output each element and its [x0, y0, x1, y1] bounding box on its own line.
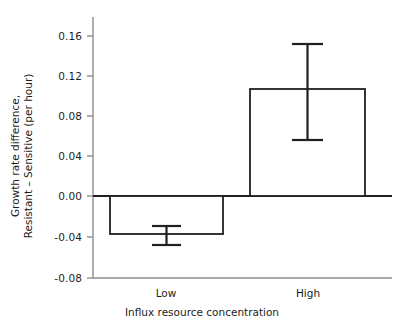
y-axis-ticks	[87, 36, 93, 278]
chart-figure: 0.16 0.12 0.08 0.04 0.00 -0.04 -0.08 Low…	[0, 0, 404, 327]
xtick-label-high: High	[268, 287, 348, 299]
ytick-label-4: 0.00	[38, 190, 82, 202]
ytick-label-2: 0.08	[38, 110, 82, 122]
y-axis-label: Growth rate difference, Resistant – Sens…	[9, 46, 35, 266]
xtick-label-low: Low	[126, 287, 206, 299]
ytick-label-1: 0.12	[38, 70, 82, 82]
ytick-label-3: 0.04	[38, 150, 82, 162]
ytick-label-5: -0.04	[38, 231, 82, 243]
y-axis-label-line2: Resistant – Sensitive (per hour)	[22, 46, 35, 266]
ytick-label-0: 0.16	[38, 30, 82, 42]
ytick-label-6: -0.08	[38, 272, 82, 284]
x-axis-label: Influx resource concentration	[0, 306, 404, 318]
y-axis-label-line1: Growth rate difference,	[9, 46, 22, 266]
